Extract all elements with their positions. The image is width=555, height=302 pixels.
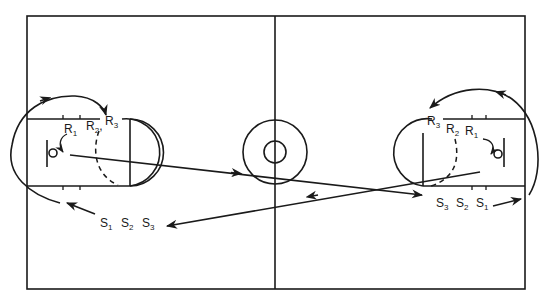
svg-text:R2,: R2, <box>86 119 102 135</box>
svg-text:S1: S1 <box>100 216 113 232</box>
svg-text:R3: R3 <box>105 114 119 130</box>
svg-text:S3: S3 <box>142 216 155 232</box>
svg-text:S2: S2 <box>456 196 469 212</box>
svg-text:R3: R3 <box>427 114 441 130</box>
svg-text:R1: R1 <box>465 124 479 140</box>
left-rebound-labels: R1 R2, R3 <box>64 114 119 138</box>
svg-text:R2: R2 <box>446 122 460 138</box>
pass-line-right-to-left <box>167 172 480 226</box>
right-key <box>394 115 525 190</box>
right-shooter-arrow <box>493 199 521 206</box>
left-shooter-arrow <box>67 203 95 214</box>
left-hoop <box>49 149 57 157</box>
left-rotation-arc <box>11 96 106 203</box>
left-shooter-labels: S1 S2 S3 <box>100 216 155 232</box>
right-r1-arrow <box>483 139 493 154</box>
right-rotation-arc <box>430 89 538 195</box>
svg-text:R1: R1 <box>64 122 78 138</box>
right-hoop <box>494 150 502 158</box>
court-diagram: R1 R2, R3 S1 S2 S3 R3 R2 R1 S3 S2 S1 <box>0 0 555 302</box>
left-r1-arrow <box>60 134 67 152</box>
court-boundary <box>27 16 525 289</box>
svg-text:S2: S2 <box>121 216 134 232</box>
pass-line-left-to-right <box>70 155 422 195</box>
right-shooter-labels: S3 S2 S1 <box>436 196 489 212</box>
svg-text:S3: S3 <box>436 196 449 212</box>
right-rebound-labels: R3 R2 R1 <box>427 114 479 140</box>
svg-text:S1: S1 <box>476 196 489 212</box>
